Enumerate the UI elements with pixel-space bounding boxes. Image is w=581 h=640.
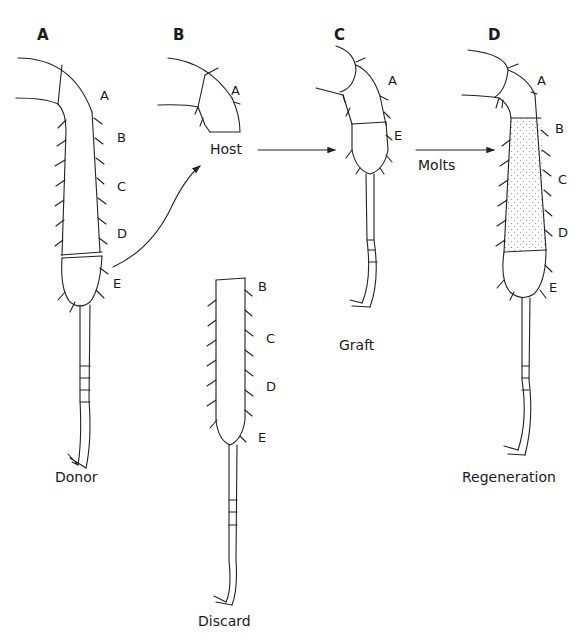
regeneration-caption: Regeneration — [462, 470, 556, 484]
discard-segment-e: E — [258, 431, 266, 444]
donor-segment-e: E — [113, 277, 121, 290]
panel-label-c: C — [334, 28, 345, 43]
graft-limb — [316, 46, 392, 307]
regeneration-limb — [462, 50, 552, 455]
discard-segment-d: D — [266, 380, 276, 393]
panel-label-d: D — [488, 28, 500, 43]
discard-segment-c: C — [266, 332, 275, 345]
discard-segment-b: B — [258, 280, 267, 293]
graft-caption: Graft — [339, 338, 374, 352]
donor-segment-c: C — [117, 180, 126, 193]
figure-drawing — [0, 0, 581, 640]
host-caption: Host — [210, 142, 242, 156]
panel-label-a: A — [37, 28, 49, 43]
donor-limb — [16, 58, 108, 468]
regeneration-segment-e: E — [549, 281, 557, 294]
discard-limb — [207, 278, 253, 605]
panel-label-b: B — [173, 28, 184, 43]
host-limb — [158, 58, 240, 132]
graft-segment-e: E — [394, 129, 402, 142]
molts-label: Molts — [418, 158, 455, 172]
regeneration-segment-d: D — [558, 226, 568, 239]
donor-caption: Donor — [55, 470, 98, 484]
regeneration-segment-a: A — [537, 74, 546, 87]
donor-segment-b: B — [117, 131, 126, 144]
host-segment-a: A — [231, 84, 240, 97]
graft-segment-a: A — [388, 74, 397, 87]
regeneration-segment-b: B — [555, 122, 564, 135]
donor-segment-a: A — [100, 89, 109, 102]
regeneration-segment-c: C — [558, 173, 567, 186]
donor-segment-d: D — [117, 227, 127, 240]
discard-caption: Discard — [198, 614, 251, 628]
